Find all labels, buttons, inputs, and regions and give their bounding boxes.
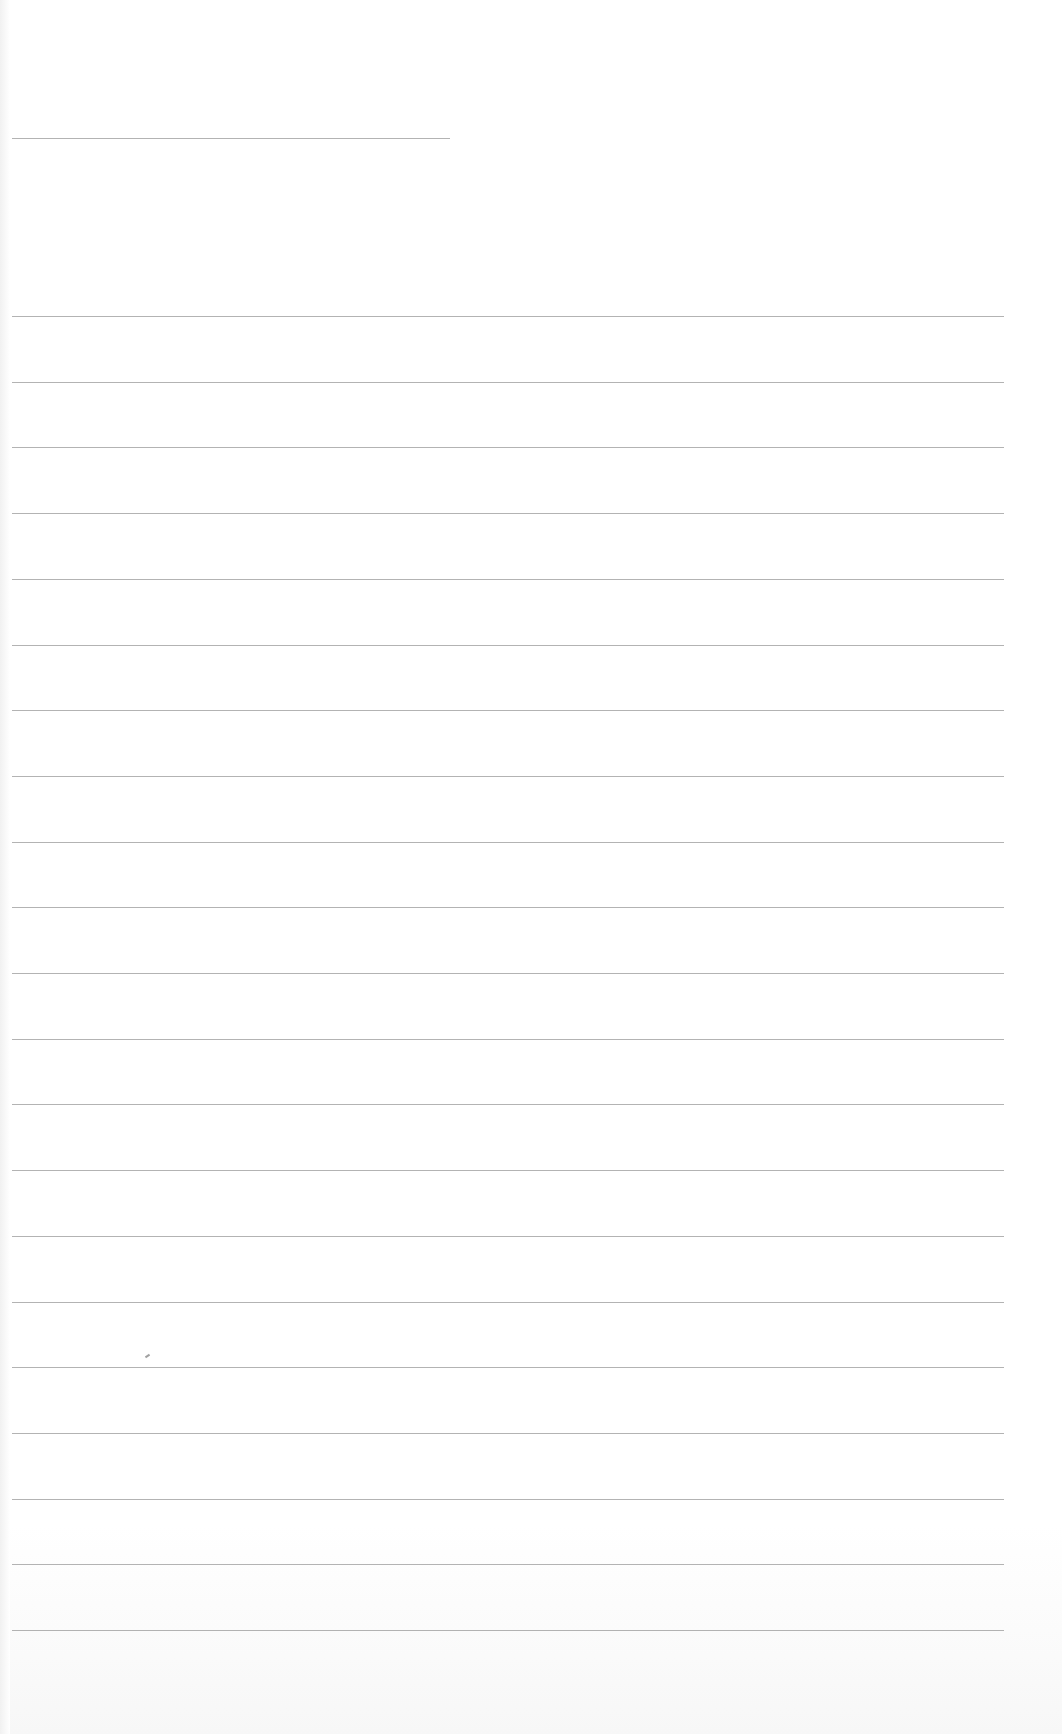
ruled-line <box>12 1564 1004 1565</box>
notebook-page <box>0 0 1062 1734</box>
ruled-line <box>12 513 1004 514</box>
ruled-line <box>12 1367 1004 1368</box>
ruled-line <box>12 447 1004 448</box>
ruled-line <box>12 1039 1004 1040</box>
ruled-line <box>12 973 1004 974</box>
ruled-line <box>12 1302 1004 1303</box>
stray-pen-mark <box>145 1354 150 1359</box>
ruled-line <box>12 776 1004 777</box>
page-edge-shadow <box>0 0 10 1734</box>
ruled-line <box>12 1170 1004 1171</box>
ruled-line <box>12 1104 1004 1105</box>
ruled-line <box>12 907 1004 908</box>
ruled-line <box>12 579 1004 580</box>
ruled-line <box>12 842 1004 843</box>
ruled-line <box>12 316 1004 317</box>
ruled-line <box>12 1630 1004 1631</box>
ruled-line <box>12 382 1004 383</box>
ruled-line <box>12 645 1004 646</box>
ruled-line <box>12 1236 1004 1237</box>
ruled-line <box>12 1433 1004 1434</box>
ruled-line <box>12 710 1004 711</box>
header-rule <box>12 138 450 139</box>
ruled-line <box>12 1499 1004 1500</box>
